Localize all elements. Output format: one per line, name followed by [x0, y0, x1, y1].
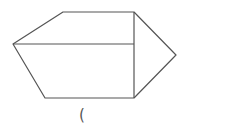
- caption-parenthesis: (: [79, 108, 85, 123]
- outer-outline: [13, 12, 176, 98]
- composite-shape-diagram: [0, 0, 228, 131]
